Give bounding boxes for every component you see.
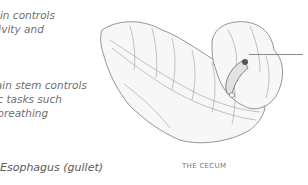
brain-stem-annotation: The brain stem controls automatic tasks … [0, 78, 87, 120]
brain-stem-line-2: automatic tasks such [0, 92, 87, 106]
brain-annotation-line-2: activity and [0, 22, 55, 36]
esophagus-label: Esophagus (gullet) [0, 161, 103, 175]
figure-caption: THE CECUM [182, 162, 226, 170]
brain-annotation: Brain controls activity and [0, 8, 55, 36]
brain-stem-line-3: as breathing [0, 106, 87, 120]
leader-line [249, 54, 303, 55]
brain-annotation-line-1: Brain controls [0, 8, 55, 22]
brain-stem-line-1: The brain stem controls [0, 78, 87, 92]
cecum-illustration [100, 0, 308, 160]
